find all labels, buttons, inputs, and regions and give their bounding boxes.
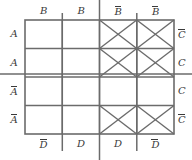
bottom-label-d-3: D (151, 139, 159, 150)
bottom-label-d-1: D (77, 139, 85, 149)
top-label-b-1: B (77, 6, 84, 16)
left-label-a-3: A (11, 114, 18, 125)
bottom-label-d-2: D (114, 139, 122, 149)
right-label-c-0: C (178, 29, 186, 40)
karnaugh-map-diagram (0, 0, 192, 160)
left-label-a-2: A (11, 86, 18, 97)
cell-x-mark-r3-c3 (137, 106, 174, 135)
cell-x-mark-r1-c3 (137, 49, 174, 78)
right-label-c-1: C (178, 58, 186, 68)
left-label-a-1: A (11, 58, 18, 68)
top-label-b-3: B (152, 6, 159, 17)
top-label-b-2: B (115, 6, 122, 17)
top-label-b-0: B (40, 6, 47, 16)
cell-x-mark-r0-c2 (100, 20, 137, 49)
left-label-a-0: A (11, 29, 18, 39)
grouping-lines-layer (0, 0, 192, 160)
bottom-label-d-0: D (40, 139, 48, 150)
cell-x-mark-r0-c3 (137, 20, 174, 49)
cell-x-mark-r1-c2 (100, 49, 137, 78)
right-label-c-2: C (178, 86, 186, 96)
right-label-c-3: C (178, 114, 186, 125)
cell-x-mark-r3-c2 (100, 106, 137, 135)
